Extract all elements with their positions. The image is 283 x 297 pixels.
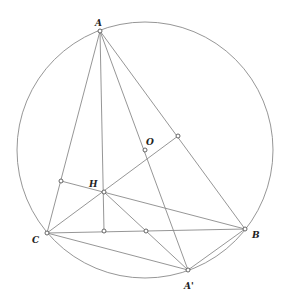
point-H — [102, 190, 106, 194]
point-mid-AB — [176, 134, 180, 138]
point-O — [143, 148, 147, 152]
point-foot-AC — [59, 179, 63, 183]
segment-BA-prime — [188, 229, 245, 270]
point-A — [98, 29, 102, 33]
side-AC — [47, 31, 100, 233]
side-AB — [100, 31, 245, 229]
label-A-prime: A' — [183, 281, 194, 291]
label-C: C — [32, 235, 40, 245]
point-mid-BC — [144, 229, 148, 233]
label-A: A — [94, 18, 102, 28]
point-A-prime — [186, 268, 190, 272]
point-B — [243, 227, 247, 231]
segment-CA-prime — [47, 233, 188, 270]
label-B: B — [251, 230, 260, 240]
label-H: H — [88, 179, 98, 189]
point-C — [45, 231, 49, 235]
label-O: O — [146, 137, 154, 147]
point-foot-BC — [102, 229, 106, 233]
altitude-from-A — [100, 31, 104, 231]
geometry-figure: A B C O H A' — [0, 0, 283, 297]
altitude-from-C — [47, 136, 178, 233]
